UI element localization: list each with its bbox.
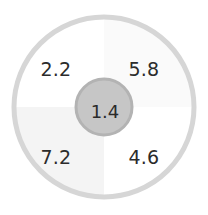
quadrant-label-bottom-right: 4.6 bbox=[120, 148, 168, 167]
center-hub-label: 1.4 bbox=[78, 103, 132, 121]
quadrant-label-top-left: 2.2 bbox=[32, 60, 80, 79]
quadrant-label-top-right: 5.8 bbox=[120, 60, 168, 79]
quadrant-label-bottom-left: 7.2 bbox=[32, 148, 80, 167]
quadrant-circle-chart: 2.2 5.8 7.2 4.6 1.4 bbox=[0, 0, 208, 215]
